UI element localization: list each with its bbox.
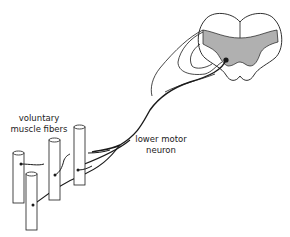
- neuron-label-line1: lower motor: [131, 134, 191, 145]
- motor-neuron-diagram: voluntary muscle fibers lower motor neur…: [0, 0, 290, 237]
- muscle-fiber-3: [74, 125, 85, 185]
- neuron-label: lower motor neuron: [131, 134, 191, 156]
- muscle-label-line1: voluntary: [4, 113, 74, 124]
- muscle-label-line2: muscle fibers: [4, 124, 74, 135]
- muscle-fibers-label: voluntary muscle fibers: [4, 113, 74, 135]
- muscle-fiber-4: [26, 172, 37, 230]
- muscle-fiber-2: [49, 138, 60, 200]
- gray-matter: [203, 30, 278, 66]
- neuron-label-line2: neuron: [131, 145, 191, 156]
- muscle-fiber-1: [13, 151, 24, 203]
